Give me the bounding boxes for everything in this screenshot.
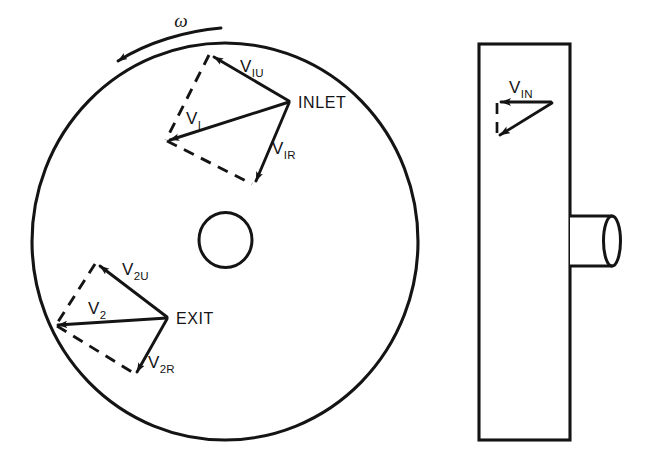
omega-label: ω bbox=[174, 10, 187, 31]
inlet-point-label: INLET bbox=[298, 94, 346, 111]
velocity-triangle-figure: ω VIU VI VIR INLET bbox=[0, 0, 646, 462]
side-view-shaft bbox=[570, 216, 621, 266]
side-view-group: VIN bbox=[479, 44, 621, 440]
diagram-canvas: ω VIU VI VIR INLET bbox=[0, 0, 646, 462]
exit-point-label: EXIT bbox=[176, 310, 214, 327]
impeller-hub-circle bbox=[199, 213, 252, 268]
impeller-disc-group bbox=[32, 43, 418, 440]
